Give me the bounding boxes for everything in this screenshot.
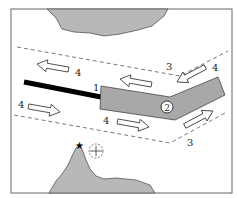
map-diagram: 2 1 3 3 4 4 4 4 ★ (0, 0, 237, 198)
line-top-label: 3 (166, 61, 172, 72)
arrow-top-right-label: 4 (212, 62, 218, 73)
arrow-top-left-label: 4 (75, 67, 81, 78)
breakwater-label: 1 (93, 82, 99, 93)
line-bottom-label: 3 (187, 137, 193, 148)
arrow-bottom-mid-label: 4 (103, 115, 109, 126)
pier-number-label: 2 (164, 103, 170, 113)
arrow-bottom-left-label: 4 (18, 99, 24, 110)
summit-star-icon: ★ (75, 140, 84, 151)
